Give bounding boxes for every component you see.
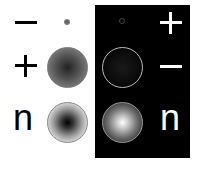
dark-ring-disk-right (102, 47, 143, 88)
n-label-left: n (13, 100, 33, 136)
minus-sign-left (15, 21, 37, 24)
gray-disk-left (47, 47, 88, 88)
n-label-right: n (160, 100, 180, 136)
dark-center-disk-left (47, 102, 88, 143)
small-dot-right (119, 18, 125, 24)
bright-center-disk-right (102, 102, 143, 143)
minus-sign-right (160, 65, 182, 68)
small-dot-left (64, 19, 70, 25)
plus-sign-right (160, 12, 182, 34)
plus-sign-left (15, 55, 37, 77)
